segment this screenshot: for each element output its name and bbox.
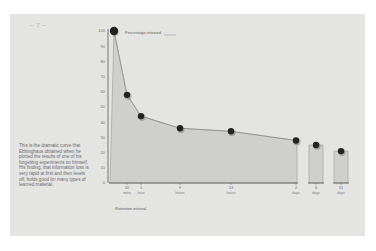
y-tick-label: 70 bbox=[101, 74, 106, 79]
y-tick-label: 50 bbox=[101, 104, 106, 109]
x-tick-unit: hour bbox=[137, 191, 145, 195]
data-point bbox=[293, 137, 299, 143]
data-point bbox=[177, 125, 183, 131]
data-point bbox=[228, 128, 234, 134]
x-tick-value: 20 bbox=[125, 185, 130, 190]
x-tick-unit: days bbox=[312, 191, 320, 195]
data-point bbox=[110, 27, 118, 35]
y-tick-label: 20 bbox=[101, 150, 106, 155]
y-axis-title: Percentage retained bbox=[125, 30, 161, 35]
x-tick-unit: mins bbox=[123, 191, 131, 195]
x-tick-value: 31 bbox=[339, 185, 344, 190]
y-tick-label: 40 bbox=[101, 120, 106, 125]
x-tick-value: 2 bbox=[295, 185, 298, 190]
y-tick-label: 10 bbox=[101, 165, 106, 170]
y-tick-label: 60 bbox=[101, 89, 106, 94]
x-tick-unit: hours bbox=[176, 191, 185, 195]
x-tick-value: 6 bbox=[315, 185, 318, 190]
x-tick-value: 9 bbox=[179, 185, 182, 190]
x-tick-unit: hours bbox=[227, 191, 236, 195]
x-axis-title: Retention interval bbox=[115, 206, 146, 211]
curve-area-segment-2 bbox=[334, 151, 348, 183]
curve-area-segment-1 bbox=[309, 145, 323, 183]
data-point bbox=[124, 92, 130, 98]
y-tick-label: 0 bbox=[103, 180, 106, 185]
data-point bbox=[138, 113, 144, 119]
curve-area-segment-0 bbox=[110, 31, 297, 183]
data-point bbox=[313, 142, 319, 148]
x-tick-unit: days bbox=[337, 191, 345, 195]
y-tick-label: 30 bbox=[101, 135, 106, 140]
y-tick-label: 100 bbox=[98, 28, 105, 33]
data-point bbox=[338, 148, 344, 154]
forgetting-curve-chart: 100908070605040302010020mins1hour9hours2… bbox=[0, 0, 376, 251]
y-tick-label: 90 bbox=[101, 44, 106, 49]
x-tick-value: 24 bbox=[229, 185, 234, 190]
y-tick-label: 80 bbox=[101, 59, 106, 64]
x-tick-unit: days bbox=[292, 191, 300, 195]
x-tick-value: 1 bbox=[140, 185, 143, 190]
